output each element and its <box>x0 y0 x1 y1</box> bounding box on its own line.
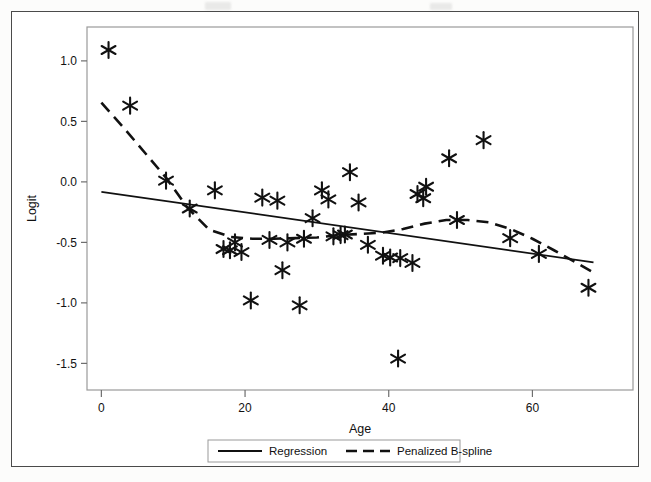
x-axis-tick-label: 40 <box>382 401 396 415</box>
x-axis-tick-label: 0 <box>98 401 105 415</box>
y-axis-tick-label: -0.5 <box>56 236 77 250</box>
logit-vs-age-scatter-chart: 1.00.50.0-0.5-1.0-1.50204060AgeLogitRegr… <box>0 0 651 482</box>
legend-label: Penalized B-spline <box>397 445 492 457</box>
y-axis-tick-label: 0.5 <box>60 115 77 129</box>
x-axis-title: Age <box>349 422 371 436</box>
y-axis-tick-label: -1.0 <box>56 296 77 310</box>
figure-canvas: 1.00.50.0-0.5-1.0-1.50204060AgeLogitRegr… <box>0 0 651 482</box>
legend-label: Regression <box>269 445 327 457</box>
x-axis-tick-label: 60 <box>526 401 540 415</box>
y-axis-tick-label: 1.0 <box>60 54 77 68</box>
x-axis-tick-label: 20 <box>238 401 252 415</box>
y-axis-title: Logit <box>25 194 39 222</box>
y-axis-tick-label: 0.0 <box>60 175 77 189</box>
y-axis-tick-label: -1.5 <box>56 357 77 371</box>
plot-area-frame <box>87 27 633 390</box>
